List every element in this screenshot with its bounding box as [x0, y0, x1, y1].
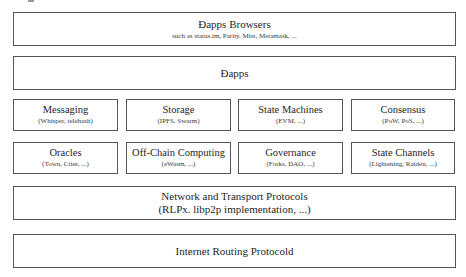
- state-machines-subtitle: (EVM, ...): [276, 116, 305, 127]
- consensus-subtitle: (PoW, PoS, ...): [382, 116, 424, 127]
- storage-box: Storage (IPFS, Swarm): [126, 99, 231, 131]
- oracles-title: Oracles: [49, 146, 81, 159]
- internet-routing-title: Internet Routing Protocold: [176, 245, 294, 258]
- off-chain-computing-subtitle: (eWasm, ...): [162, 159, 196, 170]
- consensus-box: Consensus (PoW, PoS, ...): [351, 99, 455, 131]
- state-channels-subtitle: (Lightening, Raiden, ...): [369, 159, 436, 170]
- off-chain-computing-box: Off-Chain Computing (eWasm, ...): [126, 142, 231, 174]
- dapps-title: Ðapps: [220, 67, 248, 80]
- dapps-browsers-subtitle: such as status.im, Parity, Mist, Metamas…: [172, 31, 297, 41]
- state-machines-title: State Machines: [258, 103, 322, 116]
- network-transport-subtitle: (RLPx. libp2p implementation, ...): [158, 203, 310, 216]
- cropped-text-fragment: [28, 0, 34, 2]
- consensus-title: Consensus: [381, 103, 426, 116]
- dapps-browsers-title: Ðapps Browsers: [198, 18, 270, 31]
- messaging-box: Messaging (Whisper, telehash): [13, 99, 118, 131]
- dapps-browsers-layer: Ðapps Browsers such as status.im, Parity…: [13, 12, 456, 46]
- state-channels-box: State Channels (Lightening, Raiden, ...): [351, 142, 455, 174]
- governance-title: Governance: [265, 146, 316, 159]
- network-transport-layer: Network and Transport Protocols (RLPx. l…: [13, 186, 456, 220]
- off-chain-computing-title: Off-Chain Computing: [132, 146, 225, 159]
- oracles-subtitle: (Town, Crier, ...): [42, 159, 89, 170]
- storage-title: Storage: [162, 103, 194, 116]
- governance-box: Governance (Forks, DAO, ...): [238, 142, 343, 174]
- messaging-title: Messaging: [43, 103, 89, 116]
- storage-subtitle: (IPFS, Swarm): [157, 116, 199, 127]
- governance-subtitle: (Forks, DAO, ...): [266, 159, 314, 170]
- oracles-box: Oracles (Town, Crier, ...): [13, 142, 118, 174]
- network-transport-title: Network and Transport Protocols: [161, 190, 307, 203]
- state-machines-box: State Machines (EVM, ...): [238, 99, 343, 131]
- messaging-subtitle: (Whisper, telehash): [38, 116, 93, 127]
- state-channels-title: State Channels: [372, 146, 435, 159]
- dapps-layer: Ðapps: [13, 56, 456, 90]
- internet-routing-layer: Internet Routing Protocold: [13, 234, 456, 268]
